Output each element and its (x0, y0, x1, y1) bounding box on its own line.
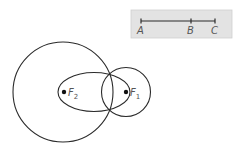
focus-f2: F2 (62, 87, 78, 101)
focus-f2-dot (62, 90, 66, 94)
focus-f1-subscript: 1 (136, 93, 140, 101)
point-label-c: C (211, 25, 218, 36)
point-label-a: A (136, 25, 144, 36)
focus-f2-subscript: 2 (74, 93, 78, 101)
segment-box: A B C (131, 10, 232, 38)
focus-f1-dot (124, 90, 128, 94)
point-label-b: B (187, 25, 194, 36)
focus-f1-label: F1 (130, 87, 140, 101)
ellipse-foci-diagram: A B C F2 F1 (0, 0, 237, 153)
focus-f2-label: F2 (68, 87, 78, 101)
focus-f1: F1 (124, 87, 140, 101)
